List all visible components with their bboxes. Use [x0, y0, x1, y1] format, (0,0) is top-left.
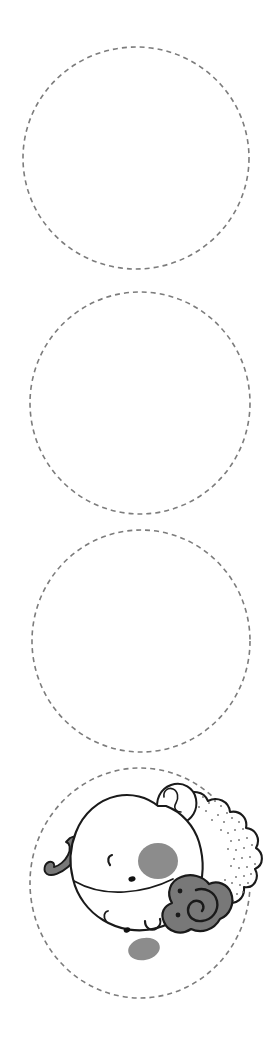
sheep-horn-dot-lower	[176, 913, 181, 918]
sheep-face	[45, 784, 262, 963]
worksheet-sheet	[0, 0, 273, 1042]
sheep-horn	[162, 875, 232, 932]
sheep-spot-large	[138, 843, 178, 879]
trace-circle-2[interactable]	[30, 292, 250, 514]
trace-circle-3[interactable]	[32, 530, 250, 752]
sheep-horn-dot-upper	[178, 889, 183, 894]
worksheet-canvas	[0, 0, 273, 1042]
sheep-spot-small	[126, 935, 162, 963]
trace-circle-1[interactable]	[23, 47, 249, 269]
